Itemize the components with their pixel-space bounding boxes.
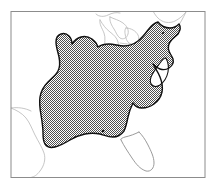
map-canvas: Outline map of eastern North America wit… xyxy=(0,0,216,190)
distribution-map-figure: Outline map of eastern North America wit… xyxy=(0,0,216,190)
range-fill-area xyxy=(0,0,216,190)
range-layer xyxy=(0,0,216,190)
locality-mark-gulf-coast xyxy=(102,130,105,133)
locality-mark-northeast xyxy=(162,32,164,34)
